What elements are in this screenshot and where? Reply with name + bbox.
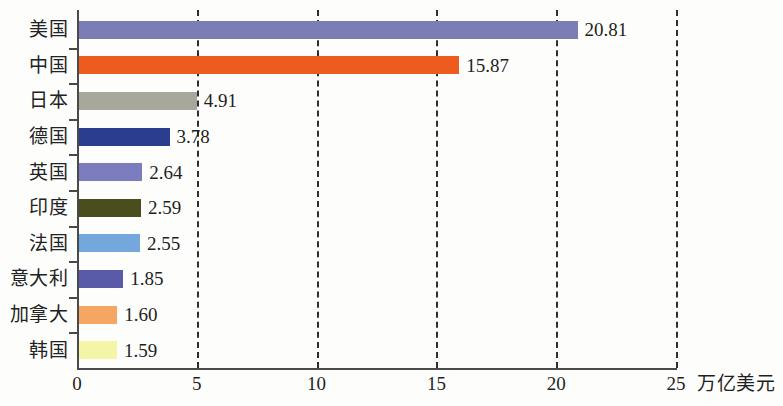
category-label-中国: 中国 bbox=[0, 56, 72, 75]
category-label-英国: 英国 bbox=[0, 163, 72, 182]
category-label-意大利: 意大利 bbox=[0, 269, 72, 288]
bar-row: 日本4.91 bbox=[0, 83, 783, 119]
bar-印度 bbox=[79, 199, 141, 217]
bar-row: 韩国1.59 bbox=[0, 332, 783, 368]
bar-chart: 美国20.81中国15.87日本4.91德国3.78英国2.64印度2.59法国… bbox=[0, 0, 783, 406]
category-label-韩国: 韩国 bbox=[0, 341, 72, 360]
bar-and-value: 15.87 bbox=[79, 48, 509, 84]
bar-value-label: 4.91 bbox=[204, 91, 237, 110]
category-label-法国: 法国 bbox=[0, 234, 72, 253]
bar-row: 意大利1.85 bbox=[0, 261, 783, 297]
bar-value-label: 15.87 bbox=[466, 56, 509, 75]
bar-and-value: 2.55 bbox=[79, 226, 180, 262]
category-label-加拿大: 加拿大 bbox=[0, 305, 72, 324]
bar-美国 bbox=[79, 21, 578, 39]
bar-and-value: 1.85 bbox=[79, 261, 164, 297]
bar-row: 英国2.64 bbox=[0, 154, 783, 190]
x-axis-unit-label: 万亿美元 bbox=[697, 374, 775, 393]
bar-德国 bbox=[79, 128, 170, 146]
bar-日本 bbox=[79, 92, 197, 110]
bar-中国 bbox=[79, 56, 459, 74]
bar-加拿大 bbox=[79, 306, 117, 324]
x-tick-10: 10 bbox=[307, 374, 326, 393]
bar-row: 法国2.55 bbox=[0, 226, 783, 262]
bar-意大利 bbox=[79, 270, 123, 288]
bar-value-label: 3.78 bbox=[177, 127, 210, 146]
bar-row: 德国3.78 bbox=[0, 119, 783, 155]
category-label-日本: 日本 bbox=[0, 91, 72, 110]
x-tick-25: 25 bbox=[667, 374, 686, 393]
bar-value-label: 20.81 bbox=[585, 20, 628, 39]
x-tick-15: 15 bbox=[427, 374, 446, 393]
bar-row: 加拿大1.60 bbox=[0, 297, 783, 333]
bar-and-value: 1.60 bbox=[79, 297, 158, 333]
bar-and-value: 4.91 bbox=[79, 83, 237, 119]
bar-row: 中国15.87 bbox=[0, 48, 783, 84]
bar-and-value: 3.78 bbox=[79, 119, 210, 155]
bar-and-value: 20.81 bbox=[79, 12, 627, 48]
x-tick-0: 0 bbox=[72, 374, 82, 393]
bar-and-value: 2.59 bbox=[79, 190, 181, 226]
bar-value-label: 1.85 bbox=[130, 269, 163, 288]
bar-row: 印度2.59 bbox=[0, 190, 783, 226]
bar-value-label: 2.59 bbox=[148, 198, 181, 217]
category-label-德国: 德国 bbox=[0, 127, 72, 146]
bar-and-value: 1.59 bbox=[79, 332, 157, 368]
bar-value-label: 1.60 bbox=[124, 305, 157, 324]
category-label-美国: 美国 bbox=[0, 20, 72, 39]
bar-and-value: 2.64 bbox=[79, 154, 183, 190]
bar-法国 bbox=[79, 234, 140, 252]
bar-英国 bbox=[79, 163, 142, 181]
bar-value-label: 1.59 bbox=[124, 341, 157, 360]
bar-韩国 bbox=[79, 341, 117, 359]
bar-row: 美国20.81 bbox=[0, 12, 783, 48]
x-tick-5: 5 bbox=[192, 374, 202, 393]
x-axis-line bbox=[77, 368, 677, 370]
bar-value-label: 2.55 bbox=[147, 234, 180, 253]
bar-value-label: 2.64 bbox=[149, 163, 182, 182]
category-label-印度: 印度 bbox=[0, 198, 72, 217]
x-tick-20: 20 bbox=[547, 374, 566, 393]
